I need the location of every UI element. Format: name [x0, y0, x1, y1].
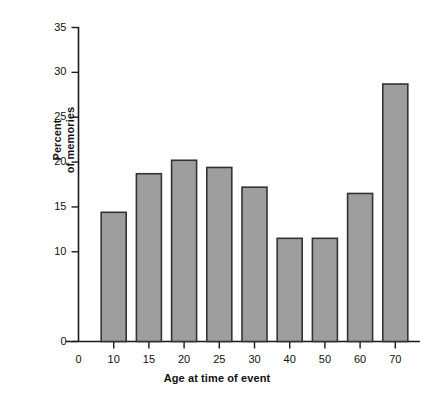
y-tick-label: 0 [45, 335, 67, 347]
bar [101, 212, 126, 341]
bar [312, 238, 337, 341]
y-tick-label: 35 [45, 21, 67, 33]
y-axis-title: Percent of memories [44, 80, 84, 200]
x-axis-ticks [114, 342, 396, 349]
x-tick-label: 30 [242, 353, 268, 365]
x-axis-title: Age at time of event [0, 372, 434, 384]
bar [172, 160, 197, 341]
bar-chart: 0101520253035 0101520253040506070 Percen… [0, 0, 434, 399]
bar [348, 193, 373, 341]
y-tick-label: 10 [45, 245, 67, 257]
x-tick-label: 15 [136, 353, 162, 365]
bar [242, 187, 267, 341]
x-tick-label: 25 [206, 353, 232, 365]
y-axis-title-line2: of memories [64, 107, 77, 174]
y-tick-label: 15 [45, 200, 67, 212]
x-tick-label: 20 [171, 353, 197, 365]
bars-group [101, 84, 408, 341]
x-tick-label: 0 [66, 353, 92, 365]
bar [136, 174, 161, 342]
x-tick-label: 70 [382, 353, 408, 365]
x-tick-label: 50 [312, 353, 338, 365]
bar [383, 84, 408, 341]
x-tick-label: 40 [277, 353, 303, 365]
x-tick-label: 60 [347, 353, 373, 365]
bar [277, 238, 302, 341]
y-tick-label: 30 [45, 65, 67, 77]
y-axis-title-line1: Percent [51, 119, 64, 160]
x-tick-label: 10 [101, 353, 127, 365]
bar [207, 167, 232, 341]
